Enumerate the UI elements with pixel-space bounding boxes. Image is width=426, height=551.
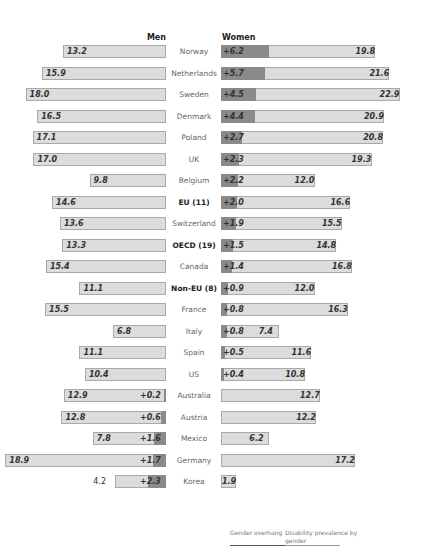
chart-row: 9.8Belgium+2.212.0 [0, 174, 426, 189]
country-label: Italy [166, 326, 222, 337]
country-label: UK [166, 154, 222, 165]
country-label: Poland [166, 132, 222, 143]
overhang-value: +6.2 [223, 46, 244, 57]
overhang-value: +4.4 [223, 111, 244, 122]
country-label: Korea [166, 476, 222, 487]
men-value: 6.8 [117, 326, 131, 337]
country-label: Spain [166, 347, 222, 358]
country-label: Belgium [166, 175, 222, 186]
overhang-value: +1.7 [140, 455, 161, 466]
chart-row: 17.1Poland+2.720.8 [0, 131, 426, 146]
country-label: Non-EU (8) [166, 283, 222, 294]
women-value: 15.5 [322, 218, 342, 229]
women-value: 7.4 [259, 326, 273, 337]
men-value: 13.2 [67, 46, 87, 57]
overhang-value: +0.8 [223, 326, 244, 337]
chart-row: 11.1Spain+0.511.6 [0, 346, 426, 361]
women-value: 16.3 [328, 304, 348, 315]
women-value: 6.2 [249, 433, 263, 444]
men-header: Men [147, 33, 166, 42]
country-label: Sweden [166, 89, 222, 100]
overhang-value: +5.7 [223, 68, 244, 79]
chart-row: 15.5France+0.816.3 [0, 303, 426, 318]
overhang-value: +1.4 [223, 261, 244, 272]
men-value: 15.4 [50, 261, 70, 272]
men-value: 15.9 [46, 68, 66, 79]
legend-prevalence: Disability prevalence by gender [285, 529, 365, 544]
men-value: 4.2 [93, 476, 106, 487]
women-value: 12.0 [295, 175, 315, 186]
overhang-value: +2.7 [223, 132, 244, 143]
legend-overhang: Gender overhang [230, 529, 282, 537]
women-value: 16.6 [330, 197, 350, 208]
chart-row: 15.9Netherlands+5.721.6 [0, 67, 426, 82]
men-value: 13.6 [64, 218, 84, 229]
overhang-value: +0.8 [223, 304, 244, 315]
men-value: 14.6 [56, 197, 76, 208]
country-label: Netherlands [166, 68, 222, 79]
women-value: 11.6 [291, 347, 311, 358]
men-value: 9.8 [94, 175, 108, 186]
country-label: Australia [166, 390, 222, 401]
country-label: US [166, 369, 222, 380]
women-value: 20.8 [363, 132, 383, 143]
overhang-value: +0.6 [140, 412, 161, 423]
men-value: 18.9 [9, 455, 29, 466]
women-value: 14.8 [316, 240, 336, 251]
men-value: 11.1 [83, 347, 103, 358]
women-value: 12.0 [295, 283, 315, 294]
overhang-value: +0.5 [223, 347, 244, 358]
chart-row: 12.9+0.2Australia12.7 [0, 389, 426, 404]
chart-row: 13.6Switzerland+1.915.5 [0, 217, 426, 232]
men-value: 12.9 [68, 390, 88, 401]
country-label: Denmark [166, 111, 222, 122]
country-label: Austria [166, 412, 222, 423]
overhang-value: +2.2 [223, 175, 244, 186]
legend-line-prevalence [285, 545, 340, 546]
women-value: 22.9 [380, 89, 400, 100]
chart-row: 12.8+0.6Austria12.2 [0, 411, 426, 426]
chart-row: 15.4Canada+1.416.8 [0, 260, 426, 275]
chart-row: 18.0Sweden+4.522.9 [0, 88, 426, 103]
women-value: 17.2 [335, 455, 355, 466]
women-value: 19.3 [352, 154, 372, 165]
women-value: 19.8 [355, 46, 375, 57]
men-value: 10.4 [89, 369, 109, 380]
chart-row: 4.2+2.3Korea1.9 [0, 475, 426, 490]
men-value: 13.3 [66, 240, 86, 251]
men-value: 17.1 [37, 132, 57, 143]
overhang-value: +0.9 [223, 283, 244, 294]
country-label: Germany [166, 455, 222, 466]
women-value: 1.9 [222, 476, 236, 487]
chart-row: 10.4US+0.410.8 [0, 368, 426, 383]
overhang-value: +2.0 [223, 197, 244, 208]
women-value: 12.2 [296, 412, 316, 423]
chart-row: 18.9+1.7Germany17.2 [0, 454, 426, 469]
chart-row: 14.6EU (11)+2.016.6 [0, 196, 426, 211]
overhang-value: +2.3 [140, 476, 161, 487]
men-value: 12.8 [65, 412, 85, 423]
overhang-value: +4.5 [223, 89, 244, 100]
overhang-value: +1.9 [223, 218, 244, 229]
country-label: Norway [166, 46, 222, 57]
chart-row: 13.2Norway+6.219.8 [0, 45, 426, 60]
chart-row: 7.8+1.6Mexico6.2 [0, 432, 426, 447]
chart-row: 17.0UK+2.319.3 [0, 153, 426, 168]
women-value: 21.6 [369, 68, 389, 79]
women-header: Women [222, 33, 256, 42]
country-label: OECD (19) [166, 240, 222, 251]
men-value: 17.0 [37, 154, 57, 165]
men-value: 18.0 [30, 89, 50, 100]
overhang-value: +1.5 [223, 240, 244, 251]
men-value: 11.1 [83, 283, 103, 294]
men-value: 16.5 [41, 111, 61, 122]
women-value: 10.8 [285, 369, 305, 380]
men-value: 7.8 [97, 433, 111, 444]
women-value: 20.9 [364, 111, 384, 122]
chart-row: 6.8Italy+0.87.4 [0, 325, 426, 340]
chart-row: 13.3OECD (19)+1.514.8 [0, 239, 426, 254]
legend-line-overhang [230, 545, 285, 546]
women-value: 16.8 [332, 261, 352, 272]
chart-row: 11.1Non-EU (8)+0.912.0 [0, 282, 426, 297]
women-bar [221, 131, 383, 144]
